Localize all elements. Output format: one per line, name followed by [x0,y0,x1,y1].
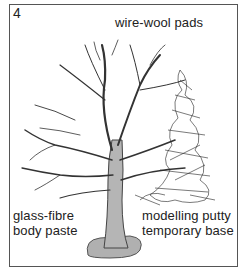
figure-number: 4 [13,6,21,21]
label-modelling-putty-line1: modelling putty [142,208,234,223]
trunk [104,140,128,248]
label-modelling-putty: modelling putty temporary base [142,208,234,238]
label-wire-wool-pads: wire-wool pads [115,15,203,30]
label-glass-fibre-line2: body paste [13,223,78,238]
label-modelling-putty-line2: temporary base [142,223,234,238]
wire-wool-foliage [135,70,215,205]
label-glass-fibre: glass-fibre body paste [13,208,78,238]
label-glass-fibre-line1: glass-fibre [13,208,78,223]
